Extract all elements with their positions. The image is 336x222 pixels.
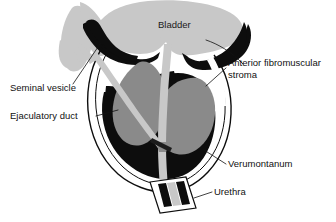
label-ejaculatory-duct: Ejaculatory duct xyxy=(10,110,78,121)
label-anterior-fibromuscular-stroma-line1: Anterior fibromuscular xyxy=(228,57,321,68)
prostate-anatomy-figure: Bladder Anterior fibromuscular stroma Se… xyxy=(0,0,336,222)
anatomy-illustration: Bladder Anterior fibromuscular stroma Se… xyxy=(0,0,336,222)
label-anterior-fibromuscular-stroma-line2: stroma xyxy=(228,69,258,80)
label-seminal-vesicle: Seminal vesicle xyxy=(10,82,76,93)
label-bladder: Bladder xyxy=(158,19,191,30)
label-verumontanum: Verumontanum xyxy=(228,158,293,169)
label-urethra: Urethra xyxy=(214,186,246,197)
